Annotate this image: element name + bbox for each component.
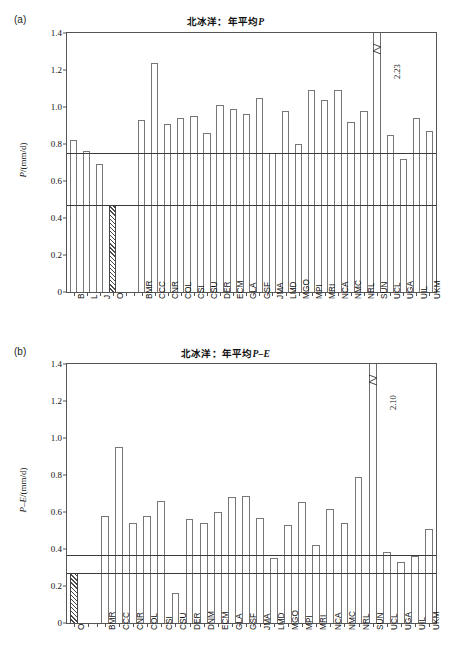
x-axis-label-lmd: LMD bbox=[277, 612, 286, 630]
clipped-bar-value-label: 2.10 bbox=[388, 395, 398, 410]
x-axis-label-sun: SUN bbox=[376, 612, 385, 630]
x-axis-tick-mark bbox=[181, 292, 182, 296]
x-axis-tick-mark bbox=[175, 623, 176, 627]
x-axis-label-nmc: NMC bbox=[354, 280, 363, 299]
y-axis-tick-mark bbox=[63, 623, 67, 624]
x-axis-tick-mark bbox=[113, 292, 114, 296]
model-bar bbox=[369, 364, 377, 623]
x-axis-tick-mark bbox=[97, 623, 98, 627]
panel-a-title-variable: P bbox=[258, 17, 264, 27]
x-axis-label-l: L bbox=[90, 294, 99, 299]
panel-b-y-axis-label: P–E/(mm/d) bbox=[18, 445, 28, 535]
x-axis-label-ccc: CCC bbox=[122, 612, 131, 630]
x-axis-tick-mark bbox=[330, 623, 331, 627]
x-axis-tick-mark bbox=[220, 292, 221, 296]
y-axis-tick-mark bbox=[63, 218, 67, 219]
x-axis-label-b: B bbox=[77, 293, 86, 299]
model-bar bbox=[282, 111, 289, 292]
x-axis-label-jma: JMA bbox=[276, 282, 285, 299]
x-axis-tick-mark bbox=[429, 292, 430, 296]
x-axis-label-gla: GLA bbox=[249, 282, 258, 299]
x-axis-label-csu: CSU bbox=[210, 281, 219, 299]
panel-b-title-variable: P–E bbox=[252, 349, 270, 359]
model-bar bbox=[312, 545, 320, 623]
y-axis-tick-mark bbox=[63, 401, 67, 402]
x-axis-label-uil: UIL bbox=[418, 617, 427, 630]
model-bar bbox=[228, 497, 236, 623]
observation-bar bbox=[109, 205, 116, 292]
panel-a-title: 北冰洋：年平均P bbox=[0, 14, 451, 28]
x-axis-label-cnr: CNR bbox=[171, 281, 180, 299]
x-axis-label-gsf: GSF bbox=[249, 613, 258, 630]
x-axis-tick-mark bbox=[316, 623, 317, 627]
x-axis-label-col: COL bbox=[150, 613, 159, 630]
panel-a-plot-area: 2.23 00.20.40.60.81.01.21.4BLJOBMRCCCCNR… bbox=[66, 32, 437, 293]
x-axis-label-mri: MRI bbox=[328, 284, 337, 299]
x-axis-label-mpi: MPI bbox=[315, 284, 324, 299]
x-axis-tick-mark bbox=[325, 292, 326, 296]
x-axis-label-csi: CSI bbox=[197, 285, 206, 299]
x-axis-label-o: O bbox=[77, 624, 86, 630]
y-axis-tick-mark bbox=[63, 144, 67, 145]
x-axis-label-gla: GLA bbox=[235, 613, 244, 630]
y-axis-tick-mark bbox=[63, 292, 67, 293]
panel-b: (b) 北冰洋：年平均P–E P–E/(mm/d) 2.10 00.20.40.… bbox=[0, 340, 451, 671]
x-axis-tick-mark bbox=[161, 623, 162, 627]
y-axis-tick-mark bbox=[63, 438, 67, 439]
x-axis-label-ukm: UKM bbox=[433, 281, 442, 300]
x-axis-tick-mark bbox=[100, 292, 101, 296]
model-bar bbox=[326, 509, 334, 623]
x-axis-tick-mark bbox=[168, 292, 169, 296]
model-bar bbox=[269, 153, 276, 292]
model-bar bbox=[321, 100, 328, 292]
panel-a: (a) 北冰洋：年平均P P/(mm/d) 2.23 00.20.40.60.8… bbox=[0, 0, 451, 340]
x-axis-label-ucl: UCL bbox=[390, 613, 399, 630]
x-axis-label-mgo: MGO bbox=[291, 610, 300, 630]
x-axis-tick-mark bbox=[338, 292, 339, 296]
model-bar bbox=[334, 90, 341, 292]
y-axis-tick-mark bbox=[63, 181, 67, 182]
x-axis-tick-mark bbox=[126, 292, 127, 296]
x-axis-tick-mark bbox=[274, 623, 275, 627]
model-bar bbox=[143, 516, 151, 623]
model-bar bbox=[426, 131, 433, 292]
panel-b-plot-area: 2.10 00.20.40.60.81.01.21.4OBMRCCCCNRCOL… bbox=[66, 363, 437, 624]
x-axis-tick-mark bbox=[429, 623, 430, 627]
observation-bar bbox=[70, 140, 77, 292]
panel-b-y-axis-variable: P–E bbox=[18, 497, 28, 513]
x-axis-tick-mark bbox=[133, 623, 134, 627]
x-axis-tick-mark bbox=[207, 292, 208, 296]
x-axis-tick-mark bbox=[147, 623, 148, 627]
x-axis-label-uil: UIL bbox=[420, 286, 429, 299]
x-axis-tick-mark bbox=[218, 623, 219, 627]
x-axis-label-uga: UGA bbox=[404, 612, 413, 630]
model-bar bbox=[256, 98, 263, 292]
x-axis-tick-mark bbox=[288, 623, 289, 627]
reference-line bbox=[67, 555, 436, 556]
x-axis-tick-mark bbox=[344, 623, 345, 627]
model-bar bbox=[214, 512, 222, 623]
model-bar bbox=[243, 114, 250, 292]
panel-a-y-axis-label: P/(mm/d) bbox=[18, 115, 28, 205]
x-axis-label-mri: MRI bbox=[319, 615, 328, 630]
panel-a-y-axis-units: /(mm/d) bbox=[18, 143, 28, 173]
x-axis-label-ukm: UKM bbox=[432, 612, 441, 631]
y-axis-tick-mark bbox=[63, 364, 67, 365]
y-axis-tick-mark bbox=[63, 70, 67, 71]
x-axis-tick-mark bbox=[373, 623, 374, 627]
x-axis-tick-mark bbox=[272, 292, 273, 296]
x-axis-label-gsf: GSF bbox=[263, 282, 272, 299]
x-axis-tick-mark bbox=[302, 623, 303, 627]
panel-b-title: 北冰洋：年平均P–E bbox=[0, 346, 451, 360]
x-axis-tick-mark bbox=[299, 292, 300, 296]
observation-bar bbox=[83, 151, 90, 292]
x-axis-tick-mark bbox=[401, 623, 402, 627]
model-bar bbox=[186, 519, 194, 623]
model-bar bbox=[164, 124, 171, 292]
x-axis-label-mpi: MPI bbox=[305, 615, 314, 630]
x-axis-tick-mark bbox=[142, 292, 143, 296]
model-bar bbox=[400, 159, 407, 292]
y-axis-tick-mark bbox=[63, 512, 67, 513]
x-axis-label-bmr: BMR bbox=[108, 612, 117, 631]
observation-bar bbox=[96, 164, 103, 292]
